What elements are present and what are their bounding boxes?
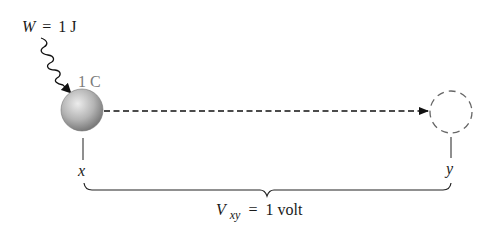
voltage-value: 1 volt (265, 201, 302, 218)
voltage-equals: = (248, 201, 257, 218)
voltage-subscript: xy (229, 208, 241, 222)
work-label: W = 1 J (22, 18, 77, 35)
potential-difference-diagram: W = 1 J 1 C x y V xy = 1 volt (0, 0, 493, 238)
work-symbol: W (22, 18, 37, 35)
voltage-label: V xy = 1 volt (216, 201, 303, 222)
destination-dashed-circle (430, 91, 472, 133)
wavy-energy-arrow-icon (41, 38, 70, 92)
span-brace (84, 183, 451, 196)
point-y-label: y (444, 160, 454, 178)
voltage-symbol: V (216, 201, 228, 218)
charge-label: 1 C (78, 73, 101, 90)
charge-sphere (61, 89, 103, 131)
work-value: 1 J (58, 18, 76, 35)
point-x-label: x (77, 162, 85, 179)
work-equals: = (42, 18, 51, 35)
